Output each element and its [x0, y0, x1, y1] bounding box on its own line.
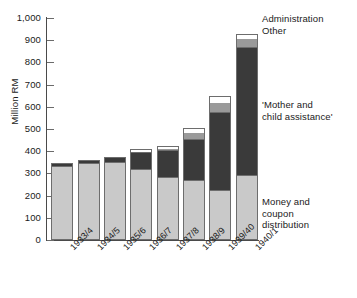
- plot-area: [47, 18, 258, 240]
- y-axis-tick-label: 300: [7, 168, 41, 178]
- y-axis-tick-label: 1,000: [7, 13, 41, 23]
- y-axis-tick-label: 700: [7, 80, 41, 90]
- y-axis-tick-label: 0: [7, 235, 41, 245]
- y-axis-tick-label: 600: [7, 102, 41, 112]
- y-axis-tick-label: 100: [7, 213, 41, 223]
- bar-segment-mother-and-child-assistance: [237, 48, 257, 176]
- bar-1933-4: [51, 163, 73, 240]
- bar-segment-mother-and-child-assistance: [184, 140, 204, 181]
- y-axis-tick: [47, 240, 54, 241]
- bar-segment-other: [210, 103, 230, 113]
- legend-label-other: Other: [262, 25, 286, 37]
- y-axis-tick-label: 400: [7, 146, 41, 156]
- legend-label-administration: Administration: [262, 13, 324, 25]
- bar-segment-other: [184, 133, 204, 140]
- y-axis-tick-label: 500: [7, 124, 41, 134]
- bar-chart: Million RM 1,000900800700600500400300200…: [0, 0, 357, 298]
- bar-segment-mother-and-child-assistance: [131, 153, 151, 170]
- y-axis-tick-label: 800: [7, 57, 41, 67]
- bar-segment-money-and-coupon-distribution: [52, 167, 72, 240]
- bar-segment-other: [237, 39, 257, 48]
- bar-segment-mother-and-child-assistance: [158, 151, 178, 178]
- y-axis-tick-label: 900: [7, 35, 41, 45]
- legend-label-money-and-coupon-distribution: Money and coupon distribution: [262, 196, 310, 231]
- y-axis-tick-label: 200: [7, 191, 41, 201]
- bar-segment-mother-and-child-assistance: [210, 113, 230, 191]
- legend-label-mother-and-child-assistance: 'Mother and child assistance': [262, 99, 333, 122]
